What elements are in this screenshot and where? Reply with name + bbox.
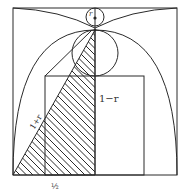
label-r: r <box>89 10 93 18</box>
tangent-line-left <box>45 30 92 76</box>
label-one-plus-r: 1+r <box>28 113 44 131</box>
hatch-line <box>0 20 110 180</box>
hatch-line <box>0 20 142 180</box>
top-left-arc <box>13 8 95 28</box>
apex-dot <box>94 29 97 32</box>
hatch-line <box>132 20 184 180</box>
label-half: ½ <box>51 182 59 191</box>
hatch-line <box>0 20 58 180</box>
hatch-line <box>0 20 6 180</box>
hatch-line <box>0 20 64 180</box>
hatch-line <box>158 20 184 180</box>
hatch-line <box>0 20 19 180</box>
hatch-line <box>73 20 183 180</box>
hatch-line <box>0 20 51 180</box>
top-right-arc <box>95 8 177 28</box>
hatched-triangle-fill <box>0 20 183 180</box>
hatch-line <box>0 20 38 180</box>
hatch-line <box>119 20 184 180</box>
hatch-line <box>0 20 45 180</box>
hatch-line <box>125 20 183 180</box>
hatch-line <box>177 20 183 180</box>
hatch-line <box>151 20 183 180</box>
label-one-minus-r: 1−r <box>99 93 119 104</box>
hatch-line <box>0 20 12 180</box>
hatch-line <box>112 20 183 180</box>
small-circle-center-dot <box>93 16 96 19</box>
geometry-diagram: r 1−r 1+r ½ <box>0 0 183 195</box>
hatch-line <box>164 20 183 180</box>
hatch-line <box>67 20 184 180</box>
